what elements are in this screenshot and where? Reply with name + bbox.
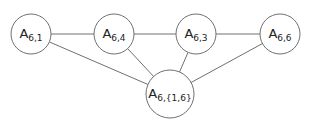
edge-n3-n16 xyxy=(180,52,189,72)
nodes: A6,1A6,4A6,3A6,6A6,{1,6} xyxy=(11,14,300,118)
node-label-subscript: 6,1 xyxy=(28,33,42,43)
node-n16: A6,{1,6} xyxy=(146,70,194,118)
node-label-subscript: 6,4 xyxy=(111,33,126,43)
node-label-subscript: 6,6 xyxy=(277,33,292,43)
node-label-base: A xyxy=(184,26,193,41)
node-label-subscript: 6,{1,6} xyxy=(157,93,191,103)
edge-n4-n16 xyxy=(128,49,154,77)
graph-diagram: A6,1A6,4A6,3A6,6A6,{1,6} xyxy=(0,0,330,122)
node-label-base: A xyxy=(102,26,111,41)
node-n4: A6,4 xyxy=(94,14,134,54)
edge-n1-n16 xyxy=(49,42,148,85)
node-label-base: A xyxy=(19,26,28,41)
node-label-base: A xyxy=(148,86,157,101)
node-n6: A6,6 xyxy=(260,14,300,54)
node-label-subscript: 6,3 xyxy=(193,33,207,43)
node-n1: A6,1 xyxy=(11,14,51,54)
node-n3: A6,3 xyxy=(176,14,216,54)
node-label-base: A xyxy=(268,26,277,41)
